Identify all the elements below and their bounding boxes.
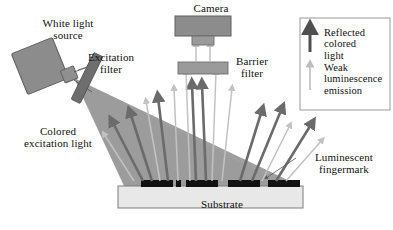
label-colored-excitation-light: Colored excitation light	[2, 126, 114, 150]
filtered-beam-arrows	[196, 44, 210, 62]
label-barrier-filter: Barrier filter	[222, 56, 282, 80]
label-substrate: Substrate	[182, 199, 262, 211]
barrier-filter	[178, 62, 228, 74]
label-luminescent-fingermark: Luminescent fingermark	[296, 152, 392, 176]
label-white-light-source: White light source	[22, 18, 114, 42]
label-excitation-filter: Excitation filter	[74, 52, 148, 76]
label-camera: Camera	[176, 3, 246, 15]
legend-label-reflected-colored-light: Reflected colored light	[324, 27, 390, 61]
figure-root: White light source Excitation filter Col…	[0, 0, 393, 230]
camera	[175, 16, 231, 45]
legend-label-weak-luminescence-emission: Weak luminescence emission	[324, 62, 392, 96]
